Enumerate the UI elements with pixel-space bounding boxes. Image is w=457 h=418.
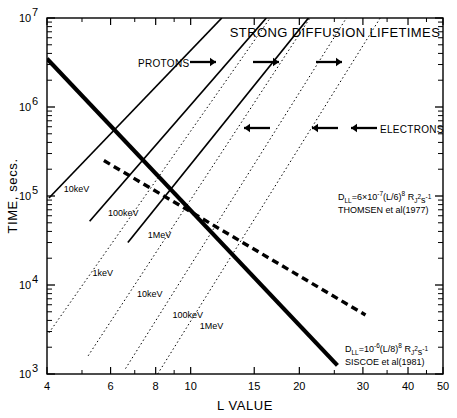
x-tick-label-8: 8 xyxy=(153,380,159,392)
x-tick-label-6: 6 xyxy=(108,380,114,392)
y-tick-exponent-4: 4 xyxy=(32,273,38,285)
curve-label-electrons-1kev: 1keV xyxy=(93,268,114,278)
electrons-label: ELECTRONS xyxy=(380,124,444,135)
y-axis-label: TIME, secs. xyxy=(5,158,20,233)
x-tick-label-10: 10 xyxy=(185,380,197,392)
curve-protons-100kev xyxy=(90,18,267,221)
y-tick-exponent-3: 3 xyxy=(32,362,38,374)
electrons-arrow-1-head xyxy=(244,124,250,133)
curve-label-protons-10kev: 10keV xyxy=(64,184,90,194)
protons-arrow-1 xyxy=(190,58,216,67)
x-tick-label-50: 50 xyxy=(437,380,449,392)
curve-label-electrons-1mev: 1MeV xyxy=(200,321,224,331)
thomsen-formula: DLL=6×10-7(L/6)8 RJ2s-1 xyxy=(338,190,432,205)
thomsen-citation: THOMSEN et al(1977) xyxy=(338,205,429,215)
x-tick-label-30: 30 xyxy=(357,380,369,392)
y-tick-exponent-6: 6 xyxy=(32,95,38,107)
curve-electrons-1mev xyxy=(158,18,381,374)
chart-title: STRONG DIFFUSION LIFETIMES xyxy=(230,25,440,40)
thomsen-formula-eq: =6×10 xyxy=(352,192,378,202)
electrons-arrow-3-head xyxy=(351,124,357,133)
x-tick-label-20: 20 xyxy=(293,380,305,392)
y-tick-mantissa-3: 10 xyxy=(19,368,31,380)
electrons-arrow-2 xyxy=(312,124,338,133)
siscoe-citation: SISCOE et al(1981) xyxy=(345,357,425,367)
y-tick-mantissa-5: 10 xyxy=(19,190,31,202)
siscoe-formula-eq: =10 xyxy=(359,344,374,354)
curve-label-electrons-100kev: 100keV xyxy=(172,310,203,320)
electrons-arrow-3 xyxy=(351,124,377,133)
electrons-arrow-2-head xyxy=(312,124,318,133)
thomsen-formula-s-pow: -1 xyxy=(426,193,432,200)
x-tick-label-4: 4 xyxy=(44,380,50,392)
protons-arrow-3-head xyxy=(336,58,342,67)
text-labels-layer: 10keV100keV1MeV1keV10keV100keV1MeV468101… xyxy=(5,6,449,413)
curve-label-electrons-10kev: 10keV xyxy=(137,289,163,299)
siscoe-formula-s-pow: -1 xyxy=(422,345,428,352)
curve-protons-1mev xyxy=(128,18,309,243)
y-tick-mantissa-7: 10 xyxy=(19,12,31,24)
protons-arrow-3 xyxy=(316,58,342,67)
electrons-arrow-1 xyxy=(244,124,270,133)
curve-label-protons-1mev: 1MeV xyxy=(148,230,172,240)
protons-arrow-1-head xyxy=(210,58,216,67)
siscoe-formula: DLL=10-6(L/8)8 RJ2s-1 xyxy=(345,342,428,357)
siscoe-formula-lratio: (L/8) xyxy=(380,344,399,354)
curve-electrons-10kev xyxy=(88,18,310,356)
curve-label-protons-100kev: 100keV xyxy=(108,208,139,218)
curve-protons-10kev xyxy=(49,18,222,198)
strong-diffusion-lifetimes-figure: 10keV100keV1MeV1keV10keV100keV1MeV468101… xyxy=(0,0,457,418)
chart-canvas: 10keV100keV1MeV1keV10keV100keV1MeV468101… xyxy=(0,0,457,418)
y-tick-mantissa-4: 10 xyxy=(19,279,31,291)
x-tick-label-15: 15 xyxy=(248,380,260,392)
protons-label: PROTONS xyxy=(138,58,189,69)
y-tick-exponent-5: 5 xyxy=(32,184,38,196)
x-axis-label: L VALUE xyxy=(217,398,273,413)
thomsen-formula-lratio: (L/6) xyxy=(383,192,402,202)
y-tick-mantissa-6: 10 xyxy=(19,101,31,113)
y-tick-exponent-7: 7 xyxy=(32,6,38,18)
x-tick-label-40: 40 xyxy=(402,380,414,392)
